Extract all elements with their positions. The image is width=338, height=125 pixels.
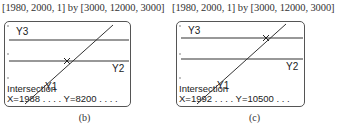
window-settings-label: [1980, 2000, 1] by [3000, 12000, 3000] bbox=[2, 2, 170, 13]
intersection-values: X=1992 . . . . Y=10500 . . . bbox=[179, 94, 290, 104]
y2-label: Y2 bbox=[112, 63, 124, 74]
tick-mark bbox=[7, 53, 8, 54]
y2-label: Y2 bbox=[286, 61, 298, 72]
intersection-values: X=1988 . . . . Y=8200 . . . . bbox=[7, 94, 118, 104]
calculator-screen: Y3 Y2 Y1 Intersection X=1988 . . . . Y=8… bbox=[4, 21, 131, 107]
y3-label: Y3 bbox=[16, 26, 28, 37]
panel-caption: (b) bbox=[0, 112, 169, 123]
panel-caption: (c) bbox=[170, 112, 338, 123]
tick-mark bbox=[7, 77, 8, 78]
tick-mark bbox=[179, 53, 180, 54]
tick-mark bbox=[7, 25, 8, 26]
calculator-screen: Y3 Y2 Y1 Intersection X=1992 . . . . Y=1… bbox=[176, 21, 305, 107]
tick-mark bbox=[179, 77, 180, 78]
graph-panel-b: [1980, 2000, 1] by [3000, 12000, 3000] Y… bbox=[0, 0, 169, 125]
y3-label: Y3 bbox=[188, 25, 200, 36]
graph-panel-c: [1980, 2000, 1] by [3000, 12000, 3000] Y… bbox=[170, 0, 338, 125]
window-settings-label: [1980, 2000, 1] by [3000, 12000, 3000] bbox=[172, 2, 338, 13]
tick-mark bbox=[179, 25, 180, 26]
